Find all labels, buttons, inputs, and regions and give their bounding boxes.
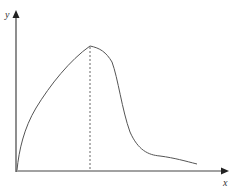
y-axis-label: y xyxy=(5,10,9,20)
curve xyxy=(17,46,197,170)
x-axis-arrow-icon xyxy=(221,168,229,175)
x-axis-label: x xyxy=(223,178,227,188)
diagram-canvas: y x xyxy=(0,0,233,190)
diagram-svg xyxy=(0,0,233,190)
y-axis-arrow-icon xyxy=(13,10,20,18)
